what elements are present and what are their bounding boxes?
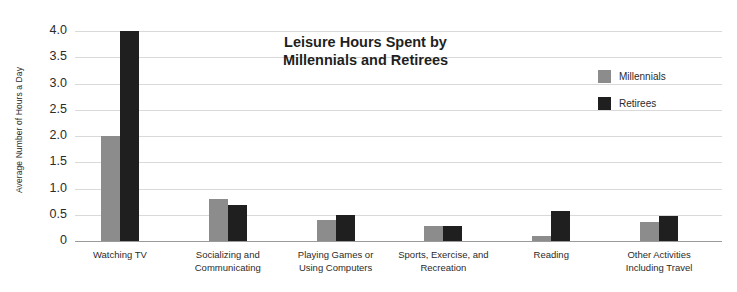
bar-group (209, 31, 247, 241)
x-axis-label-line: Communicating (168, 262, 288, 275)
x-axis-category-label: Reading (491, 249, 611, 262)
legend-swatch-icon (598, 70, 611, 83)
bar-retirees[interactable] (551, 211, 570, 241)
legend-swatch-icon (598, 97, 611, 110)
x-axis-label-line: Using Computers (276, 262, 396, 275)
x-axis-category-label: Playing Games orUsing Computers (276, 249, 396, 274)
x-axis-category-label: Other ActivitiesIncluding Travel (599, 249, 719, 274)
x-axis-label-line: Recreation (383, 262, 503, 275)
x-axis-category-label: Watching TV (60, 249, 180, 262)
bar-retirees[interactable] (336, 215, 355, 241)
bar-retirees[interactable] (120, 31, 139, 241)
bar-retirees[interactable] (443, 226, 462, 241)
y-axis-tick-label: 1.0 (27, 182, 67, 194)
gridline (75, 189, 722, 190)
y-axis-tick-label: 1.5 (27, 155, 67, 167)
x-axis-label-line: Playing Games or (276, 249, 396, 262)
chart-title-line-2: Millennials and Retirees (243, 51, 488, 69)
bar-retirees[interactable] (659, 216, 678, 241)
x-axis-category-label: Socializing andCommunicating (168, 249, 288, 274)
gridline (75, 162, 722, 163)
bar-millennials[interactable] (532, 236, 551, 241)
bar-retirees[interactable] (228, 205, 247, 241)
bar-millennials[interactable] (317, 220, 336, 241)
x-axis-label-line: Watching TV (60, 249, 180, 262)
bar-group (640, 31, 678, 241)
legend-item[interactable]: Millennials (598, 70, 666, 83)
y-axis-tick-label: 3.5 (27, 50, 67, 62)
y-axis-tick-label: 4.0 (27, 24, 67, 36)
bar-millennials[interactable] (209, 199, 228, 241)
x-axis-label-line: Other Activities (599, 249, 719, 262)
bar-group (532, 31, 570, 241)
x-axis-label-line: Socializing and (168, 249, 288, 262)
x-axis-label-line: Including Travel (599, 262, 719, 275)
chart-legend: MillennialsRetirees (598, 70, 666, 124)
axis-baseline (75, 241, 722, 242)
bar-millennials[interactable] (424, 226, 443, 241)
chart-title: Leisure Hours Spent by Millennials and R… (243, 33, 488, 69)
bar-millennials[interactable] (101, 136, 120, 241)
y-axis-tick-label: 0 (27, 234, 67, 246)
gridline (75, 215, 722, 216)
legend-item[interactable]: Retirees (598, 97, 666, 110)
legend-label: Retirees (619, 98, 656, 109)
x-axis-category-label: Sports, Exercise, andRecreation (383, 249, 503, 274)
y-axis-tick-label: 3.0 (27, 77, 67, 89)
chart-container: Average Number of Hours a Day 00.51.01.5… (0, 0, 737, 292)
gridline (75, 136, 722, 137)
chart-title-line-1: Leisure Hours Spent by (243, 33, 488, 51)
bar-millennials[interactable] (640, 222, 659, 241)
y-axis-title: Average Number of Hours a Day (12, 15, 26, 245)
y-axis-tick-label: 0.5 (27, 208, 67, 220)
x-axis-label-line: Reading (491, 249, 611, 262)
y-axis-tick-label: 2.5 (27, 103, 67, 115)
x-axis-label-line: Sports, Exercise, and (383, 249, 503, 262)
gridline (75, 31, 722, 32)
legend-label: Millennials (619, 71, 666, 82)
bar-group (101, 31, 139, 241)
y-axis-tick-label: 2.0 (27, 129, 67, 141)
